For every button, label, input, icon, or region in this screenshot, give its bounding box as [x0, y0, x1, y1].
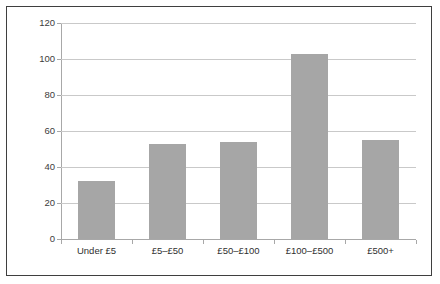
gridline-80	[61, 95, 416, 96]
y-axis-label: 40	[44, 162, 55, 172]
y-axis-tick-60	[57, 131, 61, 132]
y-axis-tick-120	[57, 23, 61, 24]
y-axis-label: 80	[44, 90, 55, 100]
gridline-100	[61, 59, 416, 60]
y-axis-tick-80	[57, 95, 61, 96]
bar	[362, 140, 399, 239]
y-axis-label: 20	[44, 198, 55, 208]
y-axis-tick-20	[57, 203, 61, 204]
bar	[149, 144, 186, 239]
x-axis-category-label: £5–£50	[152, 246, 184, 256]
x-axis-tick	[274, 240, 275, 244]
gridline-0	[61, 239, 416, 240]
x-axis-tick	[416, 240, 417, 244]
x-axis-tick	[61, 240, 62, 244]
gridline-60	[61, 131, 416, 132]
y-axis-label: 60	[44, 126, 55, 136]
bar	[220, 142, 257, 239]
y-axis-label: 100	[39, 54, 55, 64]
plot-area	[61, 23, 416, 239]
y-axis-label: 0	[50, 234, 55, 244]
y-axis-tick-100	[57, 59, 61, 60]
bar-chart: 020406080100120Under £5£5–£50£50–£100£10…	[7, 7, 431, 275]
x-axis-category-label: £100–£500	[286, 246, 334, 256]
bar	[78, 181, 115, 239]
y-axis-tick-40	[57, 167, 61, 168]
x-axis-tick	[345, 240, 346, 244]
x-axis-category-label: £50–£100	[217, 246, 259, 256]
chart-frame: 020406080100120Under £5£5–£50£50–£100£10…	[6, 6, 432, 276]
bar	[291, 54, 328, 239]
gridline-120	[61, 23, 416, 24]
x-axis-category-label: Under £5	[77, 246, 116, 256]
y-axis-label: 120	[39, 18, 55, 28]
x-axis-tick	[132, 240, 133, 244]
x-axis-tick	[203, 240, 204, 244]
x-axis-category-label: £500+	[367, 246, 394, 256]
